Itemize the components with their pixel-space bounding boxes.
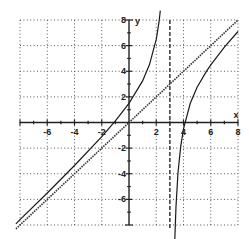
x-tick-label: 6 — [208, 127, 213, 137]
y-tick-label: -4 — [118, 169, 126, 179]
y-tick-label: 4 — [121, 66, 126, 76]
x-tick-label: 4 — [181, 127, 186, 137]
curve-branch-left — [16, 11, 160, 224]
x-tick-label: -4 — [70, 127, 78, 137]
x-tick-label: 2 — [154, 127, 159, 137]
function-curves — [16, 11, 238, 239]
y-tick-label: -6 — [118, 194, 126, 204]
y-tick-label: 6 — [121, 41, 126, 51]
asymptotes — [16, 20, 238, 229]
y-tick-label: -2 — [118, 143, 126, 153]
function-graph: -6-4-224688642-2-4-6xy — [0, 0, 249, 239]
y-tick-label: 8 — [121, 15, 126, 25]
x-tick-label: -2 — [98, 127, 106, 137]
oblique-asymptote — [16, 20, 238, 229]
y-tick-label: 2 — [121, 92, 126, 102]
x-tick-label: 8 — [235, 127, 240, 137]
x-tick-label: -6 — [43, 127, 51, 137]
x-axis-label: x — [233, 110, 238, 120]
y-axis-label: y — [135, 16, 140, 26]
